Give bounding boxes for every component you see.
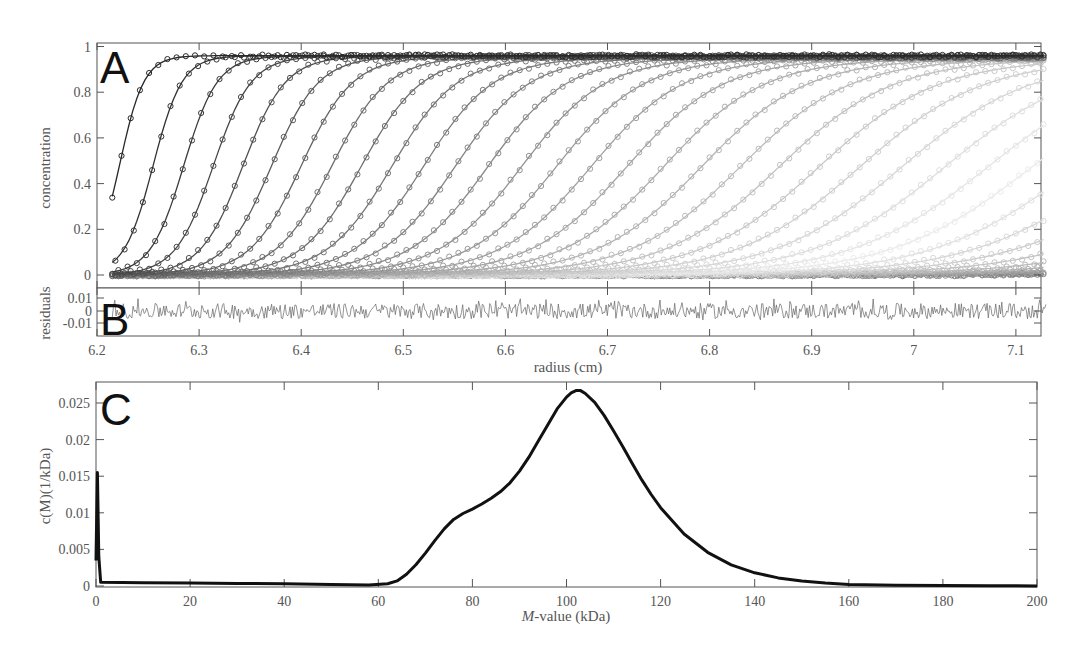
y-tick-label: 0 bbox=[83, 579, 90, 594]
x-axis-title-m-value: M-value (kDa) bbox=[521, 608, 611, 625]
y-tick-label: 0.025 bbox=[59, 396, 91, 411]
y-tick-label: 0.02 bbox=[66, 433, 91, 448]
data-point-marker bbox=[1041, 66, 1046, 71]
figure: 6.26.36.46.56.66.76.86.977.100.20.40.60.… bbox=[0, 0, 1076, 662]
panel-c-distribution: 02040608010012014016018020000.0050.010.0… bbox=[37, 382, 1048, 625]
panel-letter-b: B bbox=[100, 295, 129, 344]
x-tick-label: 120 bbox=[650, 594, 671, 609]
x-tick-label: 200 bbox=[1027, 594, 1048, 609]
y-tick-label: 0.01 bbox=[66, 506, 91, 521]
y-tick-label: 0.8 bbox=[74, 85, 92, 100]
x-tick-label: 100 bbox=[556, 594, 577, 609]
x-tick-label: 6.3 bbox=[190, 343, 208, 358]
panel-letter-a: A bbox=[100, 43, 130, 92]
y-tick-label: 0.005 bbox=[59, 542, 91, 557]
x-tick-label: 6.5 bbox=[395, 343, 413, 358]
y-axis-title-residuals: residuals bbox=[37, 286, 53, 339]
x-tick-label: 160 bbox=[838, 594, 859, 609]
x-tick-label: 7 bbox=[910, 343, 917, 358]
y-tick-label: 0.2 bbox=[74, 222, 92, 237]
x-tick-label: 6.2 bbox=[88, 343, 106, 358]
x-axis-title-radius: radius (cm) bbox=[534, 359, 603, 376]
x-tick-label: 60 bbox=[371, 594, 385, 609]
panel-b-residuals: 0.010-0.01 B residuals radius (cm) bbox=[37, 286, 1046, 376]
x-tick-label: 40 bbox=[277, 594, 291, 609]
y-tick-label: 0.015 bbox=[59, 469, 91, 484]
x-tick-label: 6.8 bbox=[701, 343, 719, 358]
x-tick-label: 140 bbox=[744, 594, 765, 609]
x-axis-title-rest: -value (kDa) bbox=[534, 608, 610, 625]
panel-letter-c: C bbox=[100, 385, 132, 434]
y-axis-title-concentration: concentration bbox=[37, 127, 53, 209]
x-tick-label: 7.1 bbox=[1007, 343, 1025, 358]
y-tick-label: 0.4 bbox=[74, 177, 92, 192]
x-tick-label: 6.7 bbox=[599, 343, 617, 358]
x-tick-label: 0 bbox=[93, 594, 100, 609]
y-tick-label: 1 bbox=[84, 40, 91, 55]
y-tick-label: -0.01 bbox=[63, 316, 92, 331]
panel-c-frame bbox=[96, 382, 1037, 587]
x-tick-label: 6.9 bbox=[803, 343, 821, 358]
x-tick-label: 80 bbox=[465, 594, 479, 609]
x-tick-label: 20 bbox=[183, 594, 197, 609]
x-tick-label: 6.4 bbox=[292, 343, 310, 358]
y-axis-title-cm: c(M)(1/kDa) bbox=[37, 448, 54, 525]
y-tick-label: 0.6 bbox=[74, 131, 92, 146]
y-tick-label: 0 bbox=[84, 268, 91, 283]
x-tick-label: 180 bbox=[932, 594, 953, 609]
x-tick-label: 6.6 bbox=[497, 343, 515, 358]
